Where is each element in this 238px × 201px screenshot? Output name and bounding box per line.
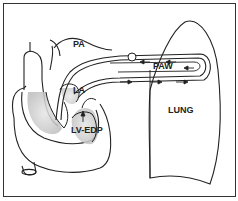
lung-outline	[149, 21, 220, 184]
label-pa: PA	[73, 40, 85, 49]
heart-lung-diagram	[0, 0, 238, 201]
label-lv-edp: LV-EDP	[71, 126, 103, 135]
label-la: LA	[73, 86, 85, 95]
chamber-shading	[28, 88, 99, 144]
label-lung: LUNG	[168, 106, 194, 115]
label-paw: PAW	[153, 62, 173, 71]
balloon-tip	[128, 53, 136, 61]
